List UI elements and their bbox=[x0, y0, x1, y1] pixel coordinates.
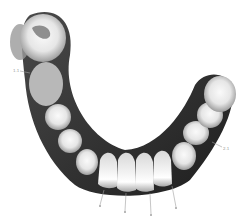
leader-dot bbox=[124, 211, 126, 213]
tooth-canine-left bbox=[76, 149, 98, 175]
tooth-canine-right bbox=[172, 142, 196, 170]
label-left: 1.1 bbox=[13, 68, 20, 73]
leader-incisor-3 bbox=[150, 193, 151, 214]
leader-dot bbox=[99, 205, 101, 207]
leader-dot bbox=[150, 214, 152, 216]
dental-arch-diagram: 1.1 2.1 bbox=[0, 0, 247, 223]
dental-arch-svg: 1.1 2.1 bbox=[0, 0, 247, 223]
tooth-incisor-1 bbox=[98, 153, 118, 188]
leader-incisor-4 bbox=[172, 186, 176, 207]
tooth-premolar-1 bbox=[45, 104, 71, 130]
leader-incisor-2 bbox=[125, 193, 126, 211]
leader-dot bbox=[175, 207, 177, 209]
label-right: 2.1 bbox=[223, 146, 230, 151]
tooth-incisor-3 bbox=[135, 153, 154, 192]
tooth-incisor-4 bbox=[153, 151, 172, 187]
tooth-incisor-2 bbox=[117, 153, 136, 192]
tooth-molar-3 bbox=[204, 76, 236, 112]
tooth-premolar-2 bbox=[58, 129, 82, 153]
tooth-molar-2 bbox=[29, 62, 63, 106]
